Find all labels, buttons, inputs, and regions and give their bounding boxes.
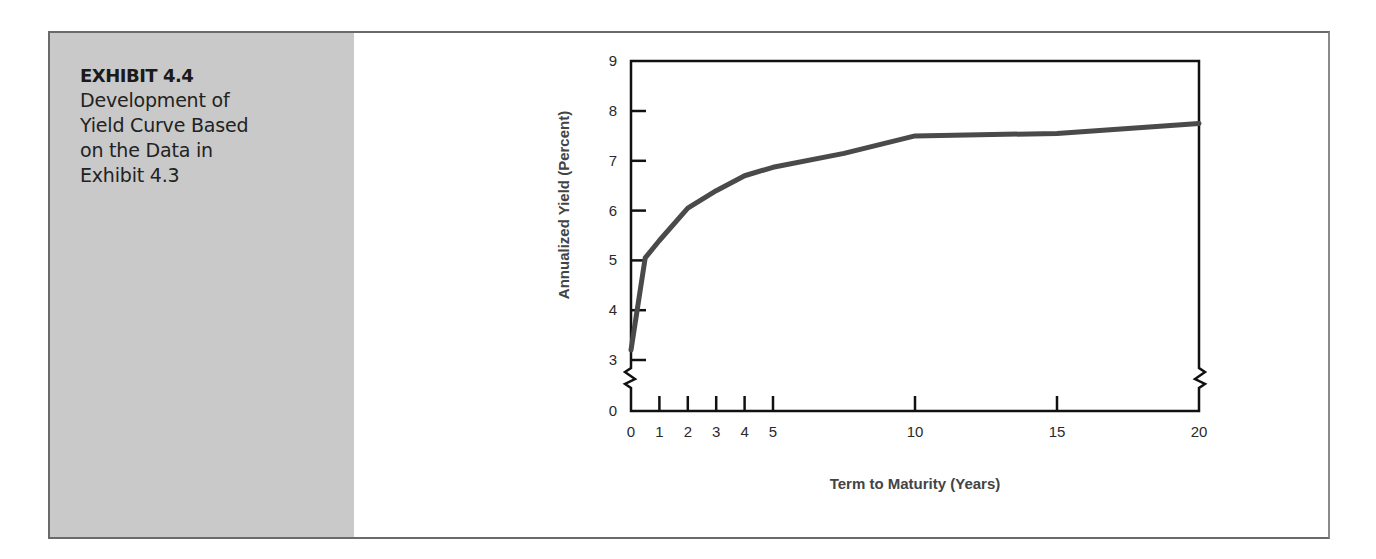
- y-tick-label: 7: [609, 152, 617, 169]
- y-tick-label: 5: [609, 251, 617, 268]
- y-tick-label: 8: [609, 102, 617, 119]
- x-tick-label: 3: [712, 423, 720, 440]
- y-axis-title: Annualized Yield (Percent): [555, 111, 572, 299]
- y-tick-label: 3: [609, 351, 617, 368]
- y-tick-label: 9: [609, 52, 617, 69]
- x-axis-ticks: 012345101520: [627, 396, 1208, 440]
- y-tick-label: 0: [609, 402, 617, 419]
- x-tick-label: 2: [684, 423, 692, 440]
- x-tick-label: 15: [1049, 423, 1066, 440]
- x-tick-label: 0: [627, 423, 635, 440]
- x-axis-title: Term to Maturity (Years): [830, 475, 1001, 492]
- x-tick-label: 1: [655, 423, 663, 440]
- y-tick-label: 4: [609, 301, 617, 318]
- yield-curve-chart: 03456789 012345101520 Annualized Yield (…: [0, 0, 1376, 559]
- x-tick-label: 10: [907, 423, 924, 440]
- x-tick-label: 4: [740, 423, 748, 440]
- y-axis-ticks: 03456789: [609, 52, 646, 419]
- y-tick-label: 6: [609, 202, 617, 219]
- plot-border: [625, 61, 1205, 411]
- plot-frame: [625, 61, 1205, 411]
- x-tick-label: 5: [769, 423, 777, 440]
- x-tick-label: 20: [1191, 423, 1208, 440]
- yield-curve-line: [631, 123, 1199, 350]
